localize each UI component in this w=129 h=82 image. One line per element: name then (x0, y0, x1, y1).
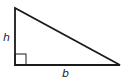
right-angle-marker (15, 54, 26, 65)
triangle-outline (15, 8, 120, 65)
height-label: h (3, 31, 10, 44)
right-triangle-diagram: h b (0, 0, 129, 82)
base-label: b (62, 67, 69, 80)
